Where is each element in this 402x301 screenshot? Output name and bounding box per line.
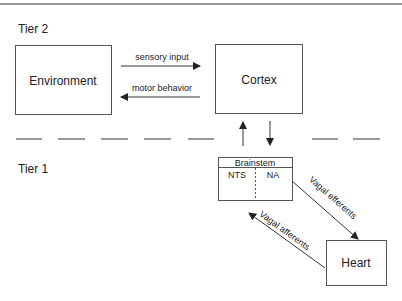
- na-label: NA: [267, 170, 280, 180]
- cortex-node: Cortex: [216, 45, 303, 114]
- cortex-label: Cortex: [241, 73, 276, 87]
- heart-node: Heart: [327, 241, 387, 286]
- tier-diagram: Tier 2 Environment Cortex sensory input …: [0, 0, 402, 301]
- environment-node: Environment: [16, 46, 112, 115]
- sensory-input-edge: sensory input: [121, 52, 200, 66]
- motor-behavior-edge: motor behavior: [121, 83, 200, 97]
- motor-behavior-label: motor behavior: [132, 83, 192, 93]
- vagal-efferents-label: Vagal efferents: [307, 174, 359, 221]
- tier1-label: Tier 1: [18, 162, 49, 176]
- brainstem-title: Brainstem: [235, 158, 276, 168]
- vagal-efferents-edge: Vagal efferents: [292, 174, 359, 239]
- tier2-label: Tier 2: [18, 22, 49, 36]
- heart-label: Heart: [341, 256, 371, 270]
- brainstem-node: Brainstem NTS NA: [219, 158, 293, 201]
- sensory-input-label: sensory input: [135, 52, 189, 62]
- vagal-afferents-edge: Vagal afferents: [249, 209, 325, 268]
- environment-label: Environment: [29, 74, 97, 88]
- vagal-afferents-label: Vagal afferents: [258, 209, 313, 252]
- nts-label: NTS: [228, 170, 246, 180]
